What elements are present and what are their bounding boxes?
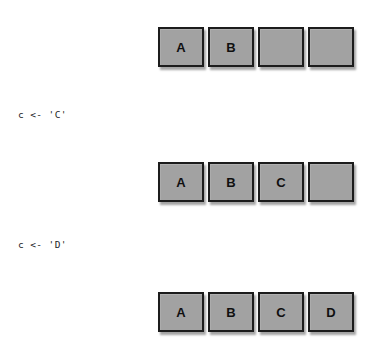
array-cell: A	[158, 162, 204, 202]
array-cell-label: B	[226, 41, 235, 54]
array-cell: B	[208, 292, 254, 332]
array-row-initial: A B	[158, 27, 354, 67]
code-annotation: c <- 'D'	[18, 240, 67, 250]
array-cell	[308, 162, 354, 202]
array-cell-label: B	[226, 306, 235, 319]
array-cell	[258, 27, 304, 67]
array-cell-label: A	[176, 306, 185, 319]
array-cell: A	[158, 27, 204, 67]
array-cell	[308, 27, 354, 67]
array-cell-label: D	[326, 306, 335, 319]
array-cell: C	[258, 292, 304, 332]
array-cell-label: C	[276, 306, 285, 319]
array-fill-diagram: A B c <- 'C' A B C c <- 'D' A	[0, 0, 372, 341]
array-cell-label: B	[226, 176, 235, 189]
array-cell: B	[208, 27, 254, 67]
array-cell-label: A	[176, 176, 185, 189]
array-cell: D	[308, 292, 354, 332]
array-row-after-d: A B C D	[158, 292, 354, 332]
array-row-after-c: A B C	[158, 162, 354, 202]
code-annotation: c <- 'C'	[18, 110, 67, 120]
array-cell: B	[208, 162, 254, 202]
array-cell-label: A	[176, 41, 185, 54]
array-cell: A	[158, 292, 204, 332]
array-cell: C	[258, 162, 304, 202]
array-cell-label: C	[276, 176, 285, 189]
